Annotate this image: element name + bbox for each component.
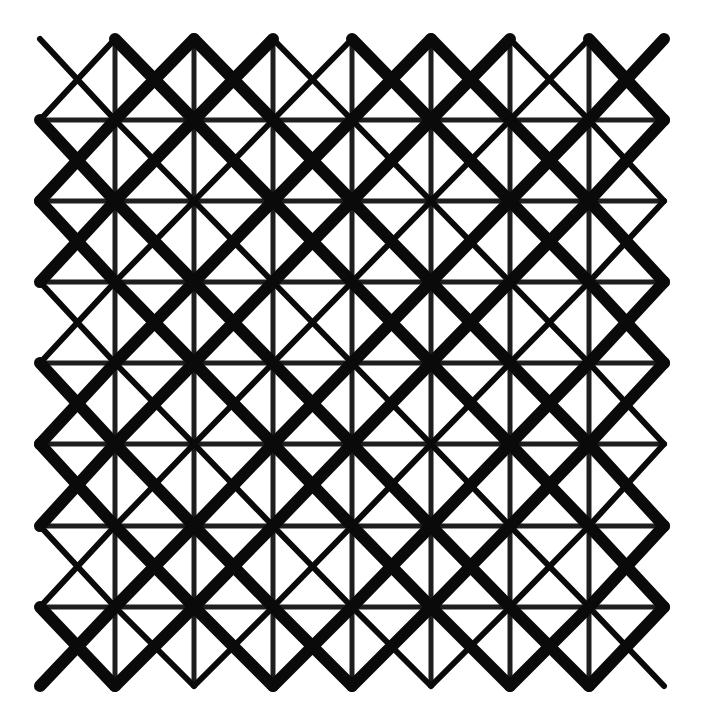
lattice-artwork [0,0,711,708]
